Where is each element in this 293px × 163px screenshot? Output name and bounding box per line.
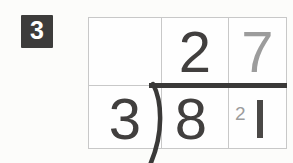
carry-digit: 2	[235, 104, 246, 123]
dividend-tens-digit: 8	[175, 90, 207, 148]
division-bar	[149, 83, 287, 88]
quotient-empty-cell	[89, 18, 161, 85]
quotient-tens-digit: 2	[179, 23, 211, 81]
worksheet-fragment: 3 2 7 3 8 2 1	[0, 0, 293, 163]
divisor-digit: 3	[109, 90, 141, 148]
dividend-ones-cell: 2 1	[229, 90, 286, 148]
quotient-ones-cell: 7	[229, 18, 286, 85]
quotient-ones-digit: 7	[241, 23, 273, 81]
division-bracket-icon	[143, 81, 169, 163]
question-number: 3	[30, 18, 44, 43]
dividend-ones-digit: 1	[257, 100, 263, 138]
dividend-tens-cell: 8	[162, 90, 228, 148]
question-number-badge: 3	[21, 15, 53, 48]
quotient-tens-cell: 2	[162, 18, 228, 85]
short-division-grid: 2 7 3 8 2 1	[88, 17, 287, 149]
